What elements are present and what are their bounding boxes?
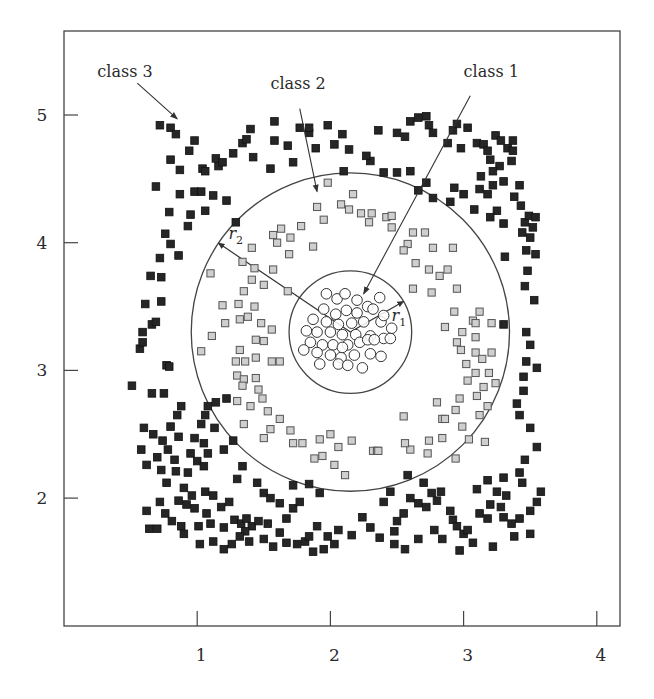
class-2-point xyxy=(459,423,466,430)
class-2-point xyxy=(284,288,291,295)
class-3-point xyxy=(423,112,431,120)
class-3-point xyxy=(305,533,313,541)
class-3-point xyxy=(161,510,169,518)
class-3-point xyxy=(313,522,321,530)
class-3-point xyxy=(437,488,445,496)
class-3-point xyxy=(376,534,384,542)
class-2-point xyxy=(465,436,472,443)
class-3-point xyxy=(204,450,212,458)
class-2-point xyxy=(412,260,419,267)
class-2-point xyxy=(452,455,459,462)
annotation-arrow xyxy=(137,83,177,119)
class-2-point xyxy=(251,303,258,310)
class-1-point xyxy=(318,304,329,315)
class-3-point xyxy=(348,531,356,539)
class-3-point xyxy=(484,190,492,198)
class-2-point xyxy=(481,438,488,445)
class-3-point xyxy=(429,129,437,137)
class-3-point xyxy=(165,208,173,216)
class-2-point xyxy=(457,346,464,353)
class-2-point xyxy=(239,382,246,389)
class-3-point xyxy=(152,318,160,326)
class-1-point xyxy=(337,342,348,353)
class-2-point xyxy=(365,219,372,226)
class-3-point xyxy=(324,121,332,129)
class-2-point xyxy=(276,415,283,422)
class-3-point xyxy=(271,118,279,126)
class-3-point xyxy=(522,358,530,366)
class-2-point xyxy=(309,243,316,250)
class-3-point xyxy=(167,240,175,248)
x-axis: 1234 xyxy=(196,611,606,665)
class-2-point xyxy=(480,383,487,390)
class-2-point xyxy=(260,434,267,441)
class-3-point xyxy=(167,423,175,431)
class-2-point xyxy=(316,436,323,443)
class-3-point xyxy=(312,144,320,152)
x-tick-label: 3 xyxy=(462,645,473,665)
class-3-point xyxy=(161,230,169,238)
class-3-point xyxy=(147,272,155,280)
class-2-point xyxy=(453,285,460,292)
class-2-point xyxy=(236,316,243,323)
class-3-point xyxy=(187,211,195,219)
class-1-point xyxy=(330,309,341,320)
class-3-point xyxy=(393,129,401,137)
class-3-point xyxy=(526,341,534,349)
class-2-point xyxy=(472,369,479,376)
x-tick-label: 1 xyxy=(196,645,207,665)
class-3-point xyxy=(446,507,454,515)
class-1-point xyxy=(342,360,353,371)
class-3-point xyxy=(176,190,184,198)
class-3-point xyxy=(163,479,171,487)
class-3-point xyxy=(276,529,284,537)
class-3-point xyxy=(331,540,339,548)
class-3-point xyxy=(289,158,297,166)
class-3-point xyxy=(508,157,516,165)
class-3-point xyxy=(157,466,165,474)
class-2-point xyxy=(456,395,463,402)
class-3-point xyxy=(522,247,530,255)
class-3-point xyxy=(220,524,228,532)
class-3-point xyxy=(517,202,525,210)
class-2-point xyxy=(421,229,428,236)
class-3-point xyxy=(537,488,545,496)
class-2-point xyxy=(476,411,483,418)
class-3-point xyxy=(156,254,164,262)
class-2-point xyxy=(255,386,262,393)
class-3-point xyxy=(228,540,236,548)
class-3-point xyxy=(260,535,268,543)
class-3-point xyxy=(363,152,371,160)
class-2-point xyxy=(248,276,255,283)
class-3-point xyxy=(526,234,534,242)
class-3-point xyxy=(520,387,528,395)
class-3-point xyxy=(521,456,529,464)
class-1-point xyxy=(386,323,397,334)
class-3-point xyxy=(223,395,231,403)
class-3-point xyxy=(407,118,415,126)
class-3-point xyxy=(415,535,423,543)
class-3-point xyxy=(320,545,328,553)
class-3-point xyxy=(429,194,437,202)
class-2-point xyxy=(270,231,277,238)
class-3-point xyxy=(456,547,464,555)
class-3-point xyxy=(497,137,505,145)
class-2-point xyxy=(252,354,259,361)
class-3-point xyxy=(267,165,275,173)
class-2-point xyxy=(234,372,241,379)
class-3-point xyxy=(500,220,508,228)
class-1-point xyxy=(340,288,351,299)
class-3-point xyxy=(502,492,510,500)
class-2-point xyxy=(337,201,344,208)
class-3-point xyxy=(209,192,217,200)
class-2-point xyxy=(436,272,443,279)
class-2-point xyxy=(278,225,285,232)
class-3-point xyxy=(209,492,217,500)
class-3-point xyxy=(500,178,508,186)
class-3-point xyxy=(340,167,348,175)
class-2-point xyxy=(400,247,407,254)
class-3-point xyxy=(203,510,211,518)
class-2-point xyxy=(484,403,491,410)
class-2-point xyxy=(259,395,266,402)
class-3-point xyxy=(269,543,277,551)
